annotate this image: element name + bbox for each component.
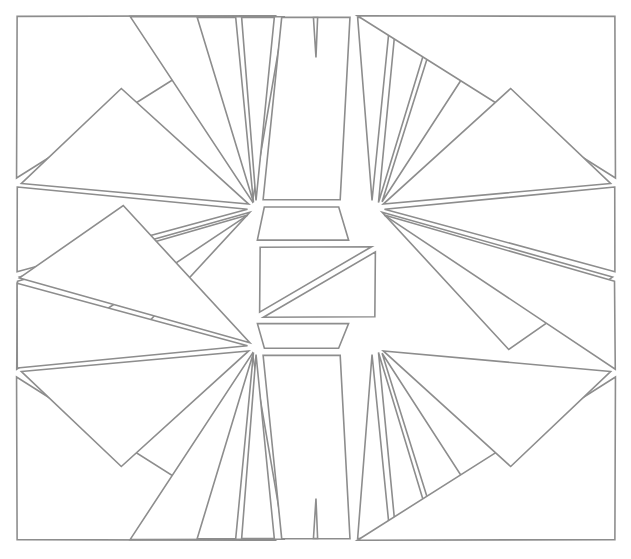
- tile-center-lower-trapezoid: [257, 324, 348, 349]
- geometric-figure-canvas: Triangulated rectangle tessellation Outl…: [0, 0, 631, 559]
- tile-center-upper-trapezoid: [257, 207, 348, 240]
- tile-group: [17, 16, 616, 540]
- triangulation-diagram: Triangulated rectangle tessellation Outl…: [0, 0, 631, 559]
